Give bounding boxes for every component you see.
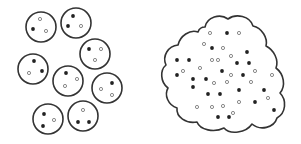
diagram-canvas (0, 0, 301, 144)
filled-particle-dot (191, 77, 195, 81)
filled-particle-dot (241, 73, 245, 77)
filled-particle-dot (41, 124, 45, 128)
circle-outline (92, 73, 122, 103)
particle-circle-5 (53, 66, 83, 96)
circle-outline (68, 101, 98, 131)
filled-particle-dot (262, 88, 266, 92)
circle-outline (53, 66, 83, 96)
filled-particle-dot (247, 61, 251, 65)
particle-circle-6 (92, 73, 122, 103)
filled-particle-dot (272, 108, 276, 112)
hollow-particle-dot (81, 108, 84, 111)
hollow-particle-dot (212, 81, 215, 84)
hollow-particle-dot (231, 111, 234, 114)
hollow-particle-dot (229, 73, 232, 76)
hollow-particle-dot (253, 69, 256, 72)
filled-particle-dot (64, 71, 68, 75)
filled-particle-dot (210, 46, 214, 50)
hollow-particle-dot (38, 17, 41, 20)
hollow-particle-dot (229, 54, 232, 57)
hollow-particle-dot (75, 77, 78, 80)
filled-particle-dot (191, 85, 195, 89)
hollow-particle-dot (210, 58, 213, 61)
filled-particle-dot (87, 120, 91, 124)
circle-outline (26, 12, 56, 42)
filled-particle-dot (42, 112, 46, 116)
hollow-particle-dot (221, 104, 224, 107)
filled-particle-dot (204, 77, 208, 81)
particle-circle-7 (33, 104, 63, 134)
filled-particle-dot (87, 47, 91, 51)
circle-outline (33, 104, 63, 134)
hollow-particle-dot (44, 29, 47, 32)
hollow-particle-dot (221, 46, 224, 49)
hollow-particle-dot (110, 93, 113, 96)
hollow-particle-dot (225, 80, 228, 83)
filled-particle-dot (220, 69, 224, 73)
circle-outline (18, 54, 48, 84)
hollow-particle-dot (210, 105, 213, 108)
hollow-particle-dot (181, 69, 184, 72)
hollow-particle-dot (208, 31, 211, 34)
particle-circle-2 (61, 8, 91, 38)
filled-particle-dot (237, 88, 241, 92)
hollow-particle-dot (63, 84, 66, 87)
filled-particle-dot (245, 50, 249, 54)
merged-cloud-group (162, 16, 285, 132)
hollow-particle-dot (93, 58, 96, 61)
filled-particle-dot (206, 92, 210, 96)
hollow-particle-dot (202, 42, 205, 45)
hollow-particle-dot (249, 80, 252, 83)
filled-particle-dot (253, 100, 257, 104)
filled-particle-dot (227, 115, 231, 119)
hollow-particle-dot (99, 47, 102, 50)
particle-circle-1 (26, 12, 56, 42)
hollow-particle-dot (270, 73, 273, 76)
filled-particle-dot (32, 59, 36, 63)
cloud-outline (162, 16, 285, 132)
filled-particle-dot (187, 58, 191, 62)
filled-particle-dot (175, 58, 179, 62)
filled-particle-dot (31, 27, 35, 31)
filled-particle-dot (235, 61, 239, 65)
circle-outline (80, 39, 110, 69)
hollow-particle-dot (237, 100, 240, 103)
particle-circle-4 (18, 54, 48, 84)
filled-particle-dot (66, 24, 70, 28)
hollow-particle-dot (216, 58, 219, 61)
filled-particle-dot (225, 31, 229, 35)
particle-circle-8 (68, 101, 98, 131)
hollow-particle-dot (195, 105, 198, 108)
hollow-particle-dot (99, 87, 102, 90)
filled-particle-dot (216, 115, 220, 119)
hollow-particle-dot (27, 71, 30, 74)
filled-particle-dot (175, 73, 179, 77)
filled-particle-dot (76, 120, 80, 124)
separate-particles-group (18, 8, 122, 134)
particle-circle-3 (80, 39, 110, 69)
filled-particle-dot (40, 69, 44, 73)
hollow-particle-dot (237, 31, 240, 34)
filled-particle-dot (110, 81, 114, 85)
hollow-particle-dot (198, 66, 201, 69)
particle-diagram (0, 0, 301, 144)
hollow-particle-dot (52, 118, 55, 121)
filled-particle-dot (218, 92, 222, 96)
hollow-particle-dot (266, 96, 269, 99)
filled-particle-dot (71, 14, 75, 18)
circle-outline (61, 8, 91, 38)
hollow-particle-dot (79, 24, 82, 27)
